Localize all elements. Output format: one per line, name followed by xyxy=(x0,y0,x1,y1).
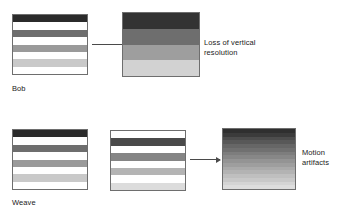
stripe-band xyxy=(123,45,199,61)
weave-output-stripes xyxy=(223,129,295,189)
stripe-band xyxy=(111,153,185,160)
stripe-band xyxy=(13,45,87,52)
weave-arrow xyxy=(190,156,220,163)
bob-input-stripes xyxy=(13,15,87,74)
stripe-band xyxy=(13,152,87,159)
bob-annotation: Loss of vertical resolution xyxy=(204,38,284,57)
weave-input-frame-even xyxy=(110,130,186,191)
stripe-band xyxy=(13,167,87,174)
stripe-band xyxy=(13,182,87,189)
stripe-band xyxy=(111,175,185,182)
stripe-band xyxy=(13,130,87,137)
weave-annotation: Motion artifacts xyxy=(302,148,344,167)
figure-canvas: Loss of vertical resolution Bob Motion a… xyxy=(0,0,344,216)
stripe-band xyxy=(13,160,87,167)
stripe-band xyxy=(13,22,87,29)
bob-output-stripes xyxy=(123,13,199,76)
stripe-band xyxy=(111,146,185,153)
weave-method-label: Weave xyxy=(12,198,36,208)
stripe-band xyxy=(13,37,87,44)
stripe-band xyxy=(123,13,199,29)
stripe-band xyxy=(13,30,87,37)
bob-input-frame xyxy=(12,14,88,75)
stripe-band xyxy=(13,15,87,22)
bob-output-frame xyxy=(122,12,200,77)
stripe-band xyxy=(123,29,199,45)
stripe-band xyxy=(123,60,199,76)
stripe-band xyxy=(13,59,87,66)
weave-input-frame-odd xyxy=(12,129,88,190)
weave-output-frame xyxy=(222,128,296,190)
stripe-band xyxy=(13,137,87,144)
stripe-band xyxy=(223,185,295,189)
stripe-band xyxy=(13,145,87,152)
stripe-band xyxy=(111,161,185,168)
stripe-band xyxy=(13,174,87,181)
stripe-band xyxy=(13,67,87,74)
weave-arrow-head xyxy=(216,157,221,163)
stripe-band xyxy=(111,138,185,145)
stripe-band xyxy=(111,168,185,175)
weave-input-even-stripes xyxy=(111,131,185,190)
stripe-band xyxy=(111,183,185,190)
bob-method-label: Bob xyxy=(12,84,26,94)
stripe-band xyxy=(111,131,185,138)
stripe-band xyxy=(13,52,87,59)
weave-input-odd-stripes xyxy=(13,130,87,189)
